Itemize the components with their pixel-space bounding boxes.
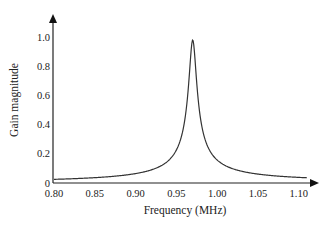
x-tick-label: 0.95 — [167, 188, 185, 199]
gain-curve — [54, 40, 307, 179]
x-tick-label: 0.85 — [86, 188, 104, 199]
y-tick-label: 0.4 — [37, 119, 51, 130]
y-tick-label: 0.2 — [37, 148, 50, 159]
x-axis-ticks: 0.800.850.900.951.001.051.10 — [45, 188, 308, 199]
y-axis-arrow-icon — [49, 14, 57, 23]
y-tick-label: 1.0 — [37, 32, 50, 43]
x-tick-label: 0.90 — [126, 188, 144, 199]
resonance-chart: 00.20.40.60.81.0 0.800.850.900.951.001.0… — [0, 0, 327, 227]
y-tick-label: 0 — [45, 178, 50, 189]
x-tick-label: 1.10 — [290, 188, 308, 199]
x-tick-label: 1.00 — [208, 188, 226, 199]
y-tick-label: 0.8 — [37, 61, 50, 72]
y-axis-ticks: 00.20.40.60.81.0 — [37, 32, 51, 189]
x-axis-arrow-icon — [310, 179, 319, 187]
y-tick-label: 0.6 — [37, 90, 50, 101]
y-axis-label: Gain magnitude — [8, 63, 21, 137]
x-axis-label: Frequency (MHz) — [144, 204, 227, 217]
x-tick-label: 0.80 — [45, 188, 63, 199]
x-tick-label: 1.05 — [249, 188, 267, 199]
